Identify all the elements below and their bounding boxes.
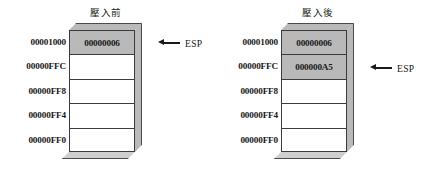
esp-pointer-after: ESP xyxy=(370,61,414,75)
stack-diagram-before: 壓入前 00001000 00000FFC 00000FF8 00000FF4 … xyxy=(0,0,212,174)
stack-slot xyxy=(282,80,346,104)
stack-box-front-face: 00000006 xyxy=(69,30,135,152)
stack-slot xyxy=(70,80,134,104)
stack-slot: 00000006 xyxy=(70,31,134,55)
stack-slot: 000000A5 xyxy=(282,55,346,79)
esp-label: ESP xyxy=(397,63,414,74)
address-label: 00000FFC xyxy=(216,54,278,78)
stack-slot xyxy=(70,55,134,79)
diagram-title-after: 壓入後 xyxy=(212,5,424,19)
stack-slot xyxy=(70,129,134,153)
stack-slot: 00000006 xyxy=(282,31,346,55)
address-column-after: 00001000 00000FFC 00000FF8 00000FF4 0000… xyxy=(216,30,278,152)
stack-box-before: 00000006 xyxy=(69,30,135,152)
address-label: 00000FF8 xyxy=(4,79,66,103)
left-arrow-icon xyxy=(158,38,180,48)
address-label: 00000FF4 xyxy=(4,103,66,127)
address-label: 00000FF8 xyxy=(216,79,278,103)
left-arrow-icon xyxy=(370,63,392,73)
address-column-before: 00001000 00000FFC 00000FF8 00000FF4 0000… xyxy=(4,30,66,152)
esp-pointer-before: ESP xyxy=(158,36,202,50)
address-label: 00000FF4 xyxy=(216,103,278,127)
stack-box-top-face xyxy=(281,23,354,30)
stack-diagram-after: 壓入後 00001000 00000FFC 00000FF8 00000FF4 … xyxy=(212,0,424,174)
stack-box-front-face: 00000006 000000A5 xyxy=(281,30,347,152)
stack-box-top-face xyxy=(69,23,142,30)
stack-box-after: 00000006 000000A5 xyxy=(281,30,347,152)
address-label: 00001000 xyxy=(4,30,66,54)
address-label: 00000FFC xyxy=(4,54,66,78)
address-label: 00000FF0 xyxy=(216,128,278,152)
address-label: 00001000 xyxy=(216,30,278,54)
stack-box-side-face xyxy=(347,23,354,152)
stack-slot xyxy=(70,104,134,128)
stack-box-bottom-face xyxy=(274,152,347,159)
stack-slot xyxy=(282,129,346,153)
esp-label: ESP xyxy=(185,38,202,49)
address-label: 00000FF0 xyxy=(4,128,66,152)
stack-slot xyxy=(282,104,346,128)
stack-box-bottom-face xyxy=(62,152,135,159)
stack-box-side-face xyxy=(135,23,142,152)
diagram-title-before: 壓入前 xyxy=(0,5,212,19)
